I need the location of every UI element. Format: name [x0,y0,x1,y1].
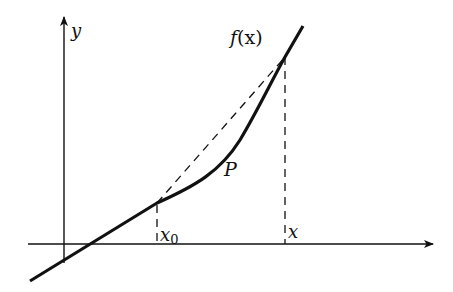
secant-diagram: y f(x) P x0 x [0,0,453,292]
function-arg: (x) [237,26,263,48]
secant-line [157,57,285,203]
function-label: f(x) [228,26,263,48]
x-label: x [288,221,298,242]
point-p-label: P [223,158,238,180]
x0-label: x0 [160,224,178,247]
x0-subscript: 0 [170,232,178,247]
x0-base: x [160,224,170,245]
y-axis-label: y [70,20,82,41]
